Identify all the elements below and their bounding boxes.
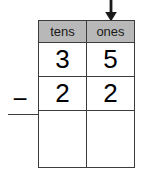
answer-ones-cell[interactable] bbox=[87, 111, 135, 168]
minuend-ones-digit: 5 bbox=[87, 43, 135, 77]
table-row-difference bbox=[39, 111, 135, 168]
subtrahend-tens-digit: 2 bbox=[39, 77, 87, 111]
table-header-row: tens ones bbox=[39, 21, 135, 43]
table-row-minuend: 3 5 bbox=[39, 43, 135, 77]
place-value-table: tens ones 3 5 2 2 bbox=[38, 20, 135, 168]
answer-tens-cell[interactable] bbox=[39, 111, 87, 168]
column-header-tens: tens bbox=[39, 21, 87, 43]
down-arrow-icon bbox=[104, 0, 118, 22]
table-row-subtrahend: 2 2 bbox=[39, 77, 135, 111]
subtrahend-ones-digit: 2 bbox=[87, 77, 135, 111]
place-value-subtraction-worksheet: − tens ones 3 5 2 2 bbox=[0, 0, 156, 178]
minuend-tens-digit: 3 bbox=[39, 43, 87, 77]
column-header-ones: ones bbox=[87, 21, 135, 43]
minus-operator: − bbox=[9, 88, 31, 110]
